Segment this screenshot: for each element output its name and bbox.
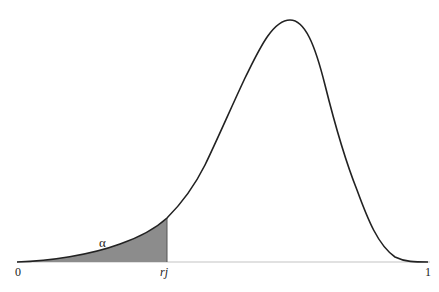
alpha-annotation: α <box>99 236 106 249</box>
x-tick-0: 0 <box>15 266 21 278</box>
x-tick-rj: rj <box>160 266 168 278</box>
density-curve <box>17 20 428 262</box>
density-chart <box>0 0 439 292</box>
shaded-alpha-region <box>17 218 167 262</box>
x-tick-1: 1 <box>425 266 431 278</box>
